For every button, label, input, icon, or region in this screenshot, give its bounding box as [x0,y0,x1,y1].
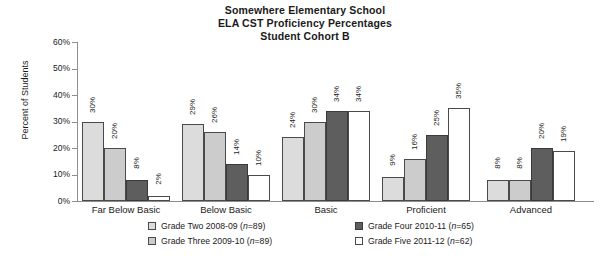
bar-value-label: 8% [494,157,502,169]
bar-value-label: 8% [133,157,141,169]
y-axis-tick-mark [72,175,77,176]
bar-value-label: 29% [189,99,197,115]
bar[interactable] [448,108,470,201]
bar-group: 30%20%8%2%Far Below Basic [82,42,170,201]
legend-column-right: Grade Four 2010-11 (n=65)Grade Five 2011… [355,218,474,248]
bar-group-bars: 8%8%20%19% [487,42,575,201]
y-axis-tick-label: 50% [40,64,70,73]
bar-value-label: 26% [211,107,219,123]
bar-slot: 20% [104,42,126,201]
bar-slot: 2% [148,42,170,201]
legend-swatch [148,222,156,230]
bar-value-label: 30% [89,96,97,112]
legend-label: Grade Two 2008-09 (n=89) [161,221,265,231]
bar[interactable] [182,124,204,201]
legend-swatch [355,222,363,230]
bar-slot: 26% [204,42,226,201]
x-axis-category-label: Basic [282,204,370,215]
bar-value-label: 34% [333,86,341,102]
plot-area: 30%20%8%2%Far Below Basic29%26%14%10%Bel… [77,42,593,201]
x-axis-category-label: Proficient [382,204,470,215]
bar-group-bars: 9%16%25%35% [382,42,470,201]
y-axis-tick-mark [72,148,77,149]
bar[interactable] [248,175,270,202]
bar[interactable] [326,111,348,201]
x-axis-category-label: Advanced [487,204,575,215]
bar-value-label: 34% [355,86,363,102]
bar-slot: 9% [382,42,404,201]
bar-value-label: 35% [455,83,463,99]
bar[interactable] [104,148,126,201]
bar-slot: 30% [304,42,326,201]
chart-title-line-2: ELA CST Proficiency Percentages [0,17,610,30]
bar[interactable] [204,132,226,201]
chart-title: Somewhere Elementary School ELA CST Prof… [0,4,610,44]
legend-item[interactable]: Grade Three 2009-10 (n=89) [148,233,272,248]
bar[interactable] [126,180,148,201]
bar[interactable] [509,180,531,201]
legend-label: Grade Four 2010-11 (n=65) [368,221,474,231]
legend-item[interactable]: Grade Two 2008-09 (n=89) [148,218,272,233]
chart-legend: Grade Two 2008-09 (n=89)Grade Three 2009… [148,218,568,250]
bar-group: 9%16%25%35%Proficient [382,42,470,201]
bar[interactable] [148,196,170,201]
legend-label: Grade Five 2011-12 (n=62) [368,236,472,246]
bar[interactable] [487,180,509,201]
bar-value-label: 10% [255,149,263,165]
bar-group: 29%26%14%10%Below Basic [182,42,270,201]
bar[interactable] [82,122,104,202]
bar-slot: 19% [553,42,575,201]
bar-slot: 14% [226,42,248,201]
bar[interactable] [226,164,248,201]
bar-value-label: 19% [560,126,568,142]
y-axis-tick-mark [72,201,77,202]
y-axis-tick-mark [72,42,77,43]
y-axis-tick-label: 10% [40,170,70,179]
bar[interactable] [304,122,326,202]
bar-value-label: 14% [233,139,241,155]
legend-swatch [355,237,363,245]
bar-group-bars: 24%30%34%34% [282,42,370,201]
legend-label: Grade Three 2009-10 (n=89) [161,236,272,246]
bar[interactable] [348,111,370,201]
y-axis-tick-label: 30% [40,117,70,126]
bar-group-bars: 29%26%14%10% [182,42,270,201]
bar-slot: 29% [182,42,204,201]
bar-value-label: 25% [433,110,441,126]
y-axis-title: Percent of Students [20,40,30,160]
bar-slot: 8% [509,42,531,201]
legend-column-left: Grade Two 2008-09 (n=89)Grade Three 2009… [148,218,272,248]
y-axis-tick-labels: 60%50%40%30%20%10%0% [36,0,70,261]
x-axis-category-label: Far Below Basic [82,204,170,215]
legend-swatch [148,237,156,245]
bar-slot: 10% [248,42,270,201]
legend-item[interactable]: Grade Four 2010-11 (n=65) [355,218,474,233]
bar-group-bars: 30%20%8%2% [82,42,170,201]
bar-value-label: 30% [311,96,319,112]
y-axis-tick-mark [72,122,77,123]
y-axis-tick-label: 20% [40,144,70,153]
bar-slot: 30% [82,42,104,201]
x-axis-line [77,201,594,202]
bar[interactable] [531,148,553,201]
bar-value-label: 16% [411,134,419,150]
bar[interactable] [404,159,426,201]
bar-slot: 25% [426,42,448,201]
chart-title-line-1: Somewhere Elementary School [0,4,610,17]
y-axis-tick-label: 60% [40,38,70,47]
bar-slot: 8% [126,42,148,201]
bar[interactable] [426,135,448,201]
bar-value-label: 8% [516,157,524,169]
bar[interactable] [282,137,304,201]
y-axis-tick-mark [72,95,77,96]
bar-group: 24%30%34%34%Basic [282,42,370,201]
legend-item[interactable]: Grade Five 2011-12 (n=62) [355,233,474,248]
bar-value-label: 9% [389,154,397,166]
x-axis-category-label: Below Basic [182,204,270,215]
bar-slot: 34% [348,42,370,201]
y-axis-tick-mark [72,69,77,70]
bar-value-label: 2% [155,173,163,185]
bar[interactable] [382,177,404,201]
bar[interactable] [553,151,575,201]
bar-slot: 20% [531,42,553,201]
